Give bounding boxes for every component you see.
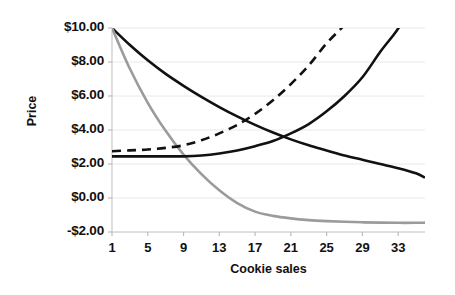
x-tick-label: 29 [342,240,382,255]
data-series [112,23,425,223]
x-tick-label: 33 [378,240,418,255]
chart-container: $10.00$8.00$6.00$4.00$2.00$0.00-$2.00 15… [0,0,455,295]
y-tick-label: $8.00 [71,53,104,68]
x-tick-label: 9 [164,240,204,255]
series-line-black-rising-curve [112,25,401,157]
x-axis-ticks [112,232,398,236]
y-tick-label: $10.00 [64,19,104,34]
x-tick-label: 21 [271,240,311,255]
y-tick-label: $2.00 [71,155,104,170]
y-tick-label: $6.00 [71,87,104,102]
y-tick-label: -$2.00 [67,223,104,238]
x-tick-label: 25 [307,240,347,255]
x-tick-label: 17 [235,240,275,255]
x-tick-label: 1 [92,240,132,255]
y-axis-title: Price [25,76,39,146]
x-tick-label: 5 [128,240,168,255]
series-line-dashed-rising-curve [112,23,346,151]
x-axis-title: Cookie sales [112,262,425,276]
y-tick-label: $0.00 [71,189,104,204]
x-tick-label: 13 [199,240,239,255]
y-tick-label: $4.00 [71,121,104,136]
